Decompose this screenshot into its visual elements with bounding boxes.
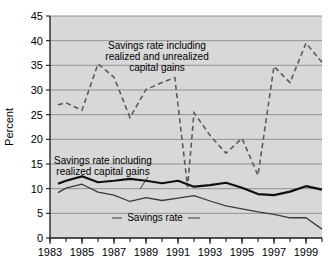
annotation-unrealized-line-1: Savings rate including — [108, 40, 206, 51]
x-tick-label: 1989 — [134, 246, 158, 258]
x-tick-label: 1993 — [198, 246, 222, 258]
x-tick-label: 1999 — [294, 246, 318, 258]
x-tick-label: 1987 — [102, 246, 126, 258]
y-tick-label: 25 — [31, 109, 43, 121]
annotation-unrealized-line-2: realized and unrealized — [105, 51, 208, 62]
annotation-unrealized-line-3: capital gains — [129, 62, 185, 73]
y-tick-label: 15 — [31, 158, 43, 170]
y-tick-label: 45 — [31, 10, 43, 22]
annotation-realized-line-1: Savings rate including — [54, 155, 152, 166]
y-tick-label: 30 — [31, 84, 43, 96]
y-axis-title: Percent — [3, 108, 15, 146]
annotation-realized-line-2: realized capital gains — [56, 166, 149, 177]
chart-svg: 051015202530354045 198319851987198919911… — [0, 0, 334, 272]
y-tick-label: 0 — [37, 232, 43, 244]
x-tick-label: 1997 — [262, 246, 286, 258]
y-tick-label: 40 — [31, 35, 43, 47]
x-tick-label: 1983 — [38, 246, 62, 258]
annotation-savings-rate-line-1: Savings rate — [127, 212, 183, 223]
y-tick-label: 35 — [31, 59, 43, 71]
x-tick-label: 1985 — [70, 246, 94, 258]
x-tick-label: 1991 — [166, 246, 190, 258]
y-tick-label: 5 — [37, 207, 43, 219]
x-tick-label: 1995 — [230, 246, 254, 258]
y-tick-label: 10 — [31, 183, 43, 195]
y-tick-label: 20 — [31, 133, 43, 145]
savings-rate-chart: 051015202530354045 198319851987198919911… — [0, 0, 334, 272]
